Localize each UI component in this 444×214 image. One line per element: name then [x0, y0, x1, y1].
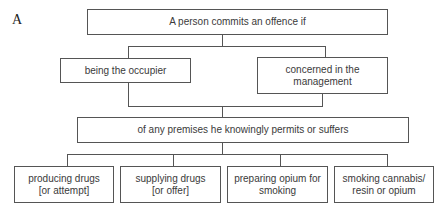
activity-line2: [or attempt]: [39, 185, 90, 197]
role-node-occupier: being the occupier: [60, 58, 191, 83]
connector: [280, 154, 281, 166]
connector: [67, 154, 68, 166]
role-node-text: being the occupier: [85, 65, 167, 77]
root-node-text: A person commits an offence if: [169, 16, 306, 28]
activity-line1: smoking cannabis/: [343, 173, 426, 185]
activity-line1: supplying drugs: [135, 173, 205, 185]
role-node-text: concerned in the management: [278, 64, 367, 88]
panel-label: A: [12, 12, 22, 28]
connector: [128, 106, 323, 107]
connector: [325, 46, 326, 57]
role-node-management: concerned in the management: [257, 57, 388, 94]
root-node: A person commits an offence if: [87, 9, 388, 35]
connector: [222, 106, 223, 117]
activity-node-producing: producing drugs [or attempt]: [14, 166, 114, 203]
connector: [222, 35, 223, 46]
connector: [128, 46, 129, 58]
activity-line2: [or offer]: [152, 185, 189, 197]
connector: [387, 154, 388, 166]
connector: [173, 154, 174, 166]
connector: [128, 46, 326, 47]
condition-node-text: of any premises he knowingly permits or …: [137, 124, 348, 136]
activity-node-preparing-opium: preparing opium for smoking: [227, 166, 328, 203]
activity-line1: producing drugs: [28, 173, 100, 185]
connector: [67, 154, 388, 155]
connector: [128, 83, 129, 107]
condition-node: of any premises he knowingly permits or …: [77, 117, 409, 143]
activity-node-smoking: smoking cannabis/ resin or opium: [334, 166, 434, 203]
activity-line2: smoking: [259, 185, 296, 197]
activity-node-supplying: supplying drugs [or offer]: [120, 166, 221, 203]
activity-line2: resin or opium: [352, 185, 415, 197]
activity-line1: preparing opium for: [234, 173, 321, 185]
connector: [222, 143, 223, 154]
